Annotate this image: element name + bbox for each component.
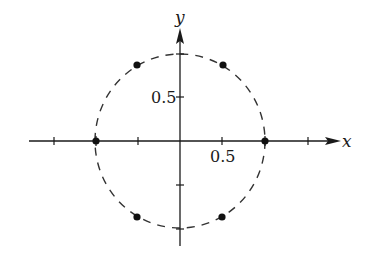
unit-circle-diagram: x y 0.5 0.5 bbox=[0, 0, 365, 258]
x-axis-label: x bbox=[342, 131, 352, 151]
y-axis bbox=[176, 28, 184, 246]
point-neg0.5-neg0.866 bbox=[133, 213, 140, 220]
point-0.5-0.866 bbox=[219, 61, 226, 68]
x-tick-label-0.5: 0.5 bbox=[210, 147, 235, 166]
point-neg0.5-0.866 bbox=[133, 61, 140, 68]
point-neg1-0 bbox=[92, 137, 99, 144]
y-tick-label-0.5: 0.5 bbox=[151, 88, 176, 107]
y-axis-label: y bbox=[174, 7, 185, 27]
point-0.5-neg0.866 bbox=[218, 213, 225, 220]
point-1-0 bbox=[261, 137, 268, 144]
x-axis bbox=[29, 136, 341, 146]
